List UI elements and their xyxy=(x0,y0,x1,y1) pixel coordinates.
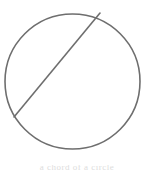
diagram-background xyxy=(0,0,154,174)
figure-container: a chord of a circle xyxy=(0,0,154,174)
figure-caption: a chord of a circle xyxy=(0,165,154,172)
circle-chord-diagram xyxy=(0,0,154,174)
caption-strip: a chord of a circle xyxy=(0,165,154,174)
